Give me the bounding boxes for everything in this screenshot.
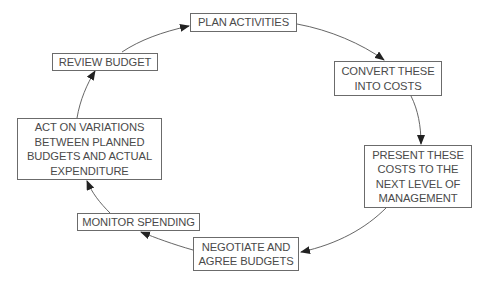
arrow-plan-to-convert (297, 24, 384, 60)
step-label-line: CONVERT THESE (341, 64, 434, 79)
arrow-review-to-plan (122, 26, 189, 52)
arrow-negotiate-to-monitor (141, 232, 193, 250)
step-label-line: REVIEW BUDGET (59, 55, 152, 70)
step-label-line: MANAGEMENT (378, 191, 457, 206)
budget-cycle-diagram: PLAN ACTIVITIES CONVERT THESE INTO COSTS… (0, 0, 483, 282)
step-label-line: INTO COSTS (354, 79, 421, 94)
arrow-present-to-negotiate (301, 208, 386, 252)
arrow-convert-to-present (411, 96, 421, 144)
step-label-line: COSTS TO THE (378, 162, 459, 177)
step-convert-into-costs: CONVERT THESE INTO COSTS (334, 61, 442, 96)
step-label-line: ACT ON VARIATIONS (35, 120, 145, 135)
arrow-act-to-review (77, 71, 95, 118)
step-negotiate-budgets: NEGOTIATE AND AGREE BUDGETS (193, 237, 299, 271)
step-label-line: AGREE BUDGETS (198, 254, 293, 269)
step-act-on-variations: ACT ON VARIATIONS BETWEEN PLANNED BUDGET… (17, 118, 162, 180)
step-label-line: MONITOR SPENDING (82, 215, 195, 230)
step-review-budget: REVIEW BUDGET (52, 53, 158, 71)
step-present-to-management: PRESENT THESE COSTS TO THE NEXT LEVEL OF… (364, 145, 472, 208)
step-monitor-spending: MONITOR SPENDING (77, 213, 200, 231)
step-label-line: EXPENDITURE (50, 164, 128, 179)
step-label-line: NEXT LEVEL OF (376, 177, 461, 192)
arrow-monitor-to-act (87, 181, 110, 213)
step-label-line: NEGOTIATE AND (202, 240, 291, 255)
step-label-line: PRESENT THESE (372, 148, 464, 163)
step-label-line: BETWEEN PLANNED (35, 135, 145, 150)
step-plan-activities: PLAN ACTIVITIES (190, 13, 297, 32)
step-label-line: PLAN ACTIVITIES (198, 15, 289, 30)
step-label-line: BUDGETS AND ACTUAL (27, 149, 152, 164)
